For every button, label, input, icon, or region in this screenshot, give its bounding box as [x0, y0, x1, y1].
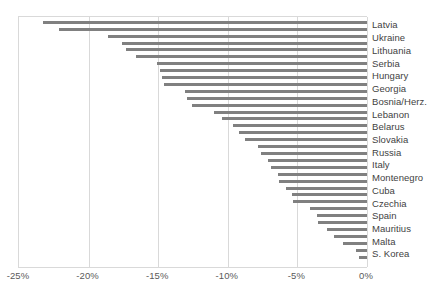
bar — [222, 117, 367, 120]
category-label: Spain — [372, 211, 397, 221]
bar — [292, 193, 367, 196]
bar — [293, 200, 367, 203]
x-tick-label: -25% — [7, 270, 30, 281]
bar-row — [19, 249, 367, 252]
bar-chart: LatviaUkraineLithuaniaSerbiaHungaryGeorg… — [0, 0, 436, 299]
bar — [164, 83, 367, 86]
bar-row — [19, 90, 367, 93]
category-label: Czechia — [372, 199, 407, 209]
bar — [271, 166, 367, 169]
bar-row — [19, 131, 367, 134]
x-tick-label: -10% — [216, 270, 239, 281]
bar — [122, 42, 367, 45]
bar — [136, 55, 367, 58]
bar — [334, 235, 367, 238]
bar-row — [19, 207, 367, 210]
bar — [286, 187, 367, 190]
category-label: Georgia — [372, 84, 406, 94]
bar-row — [19, 42, 367, 45]
bar-row — [19, 97, 367, 100]
bar — [258, 145, 367, 148]
x-tick-label: -5% — [288, 270, 305, 281]
category-label: Montenegro — [372, 173, 423, 183]
bar-row — [19, 111, 367, 114]
bars-container — [19, 17, 367, 267]
bar — [278, 173, 367, 176]
bar-row — [19, 83, 367, 86]
category-label: Cuba — [372, 186, 395, 196]
bar — [245, 138, 367, 141]
bar — [160, 69, 367, 72]
bar — [157, 62, 367, 65]
bar-row — [19, 117, 367, 120]
bar — [192, 104, 367, 107]
bar-row — [19, 228, 367, 231]
category-label: Serbia — [372, 59, 400, 69]
bar-row — [19, 48, 367, 51]
bar-row — [19, 235, 367, 238]
bar — [162, 76, 367, 79]
category-label: Bosnia/Herz. — [372, 97, 427, 107]
bar — [239, 131, 367, 134]
bar-row — [19, 124, 367, 127]
bar — [318, 221, 367, 224]
bar — [268, 159, 367, 162]
category-label: Latvia — [372, 20, 398, 30]
category-label: Mauritius — [372, 224, 411, 234]
bar-row — [19, 166, 367, 169]
x-tick-label: -20% — [76, 270, 99, 281]
x-tick-label: -15% — [146, 270, 169, 281]
bar — [359, 256, 367, 259]
bar — [214, 111, 367, 114]
bar-row — [19, 69, 367, 72]
bar-row — [19, 221, 367, 224]
bar — [59, 28, 367, 31]
bar — [310, 207, 367, 210]
bar-row — [19, 62, 367, 65]
bar — [356, 249, 367, 252]
bar — [279, 180, 367, 183]
bar-row — [19, 173, 367, 176]
bar — [261, 152, 367, 155]
category-label: Hungary — [372, 71, 408, 81]
bar — [343, 242, 367, 245]
category-label: Slovakia — [372, 135, 408, 145]
bar-row — [19, 152, 367, 155]
bar-row — [19, 242, 367, 245]
plot-area — [18, 16, 367, 268]
x-axis-tick-labels: -25%-20%-15%-10%-5%0% — [0, 270, 436, 290]
bar — [43, 21, 367, 24]
bar-row — [19, 159, 367, 162]
bar-row — [19, 145, 367, 148]
bar — [185, 90, 367, 93]
bar — [108, 35, 367, 38]
category-label: Belarus — [372, 122, 405, 132]
bar-row — [19, 200, 367, 203]
bar-row — [19, 214, 367, 217]
category-label: Ukraine — [372, 33, 405, 43]
bar-row — [19, 187, 367, 190]
bar-row — [19, 55, 367, 58]
bar-row — [19, 21, 367, 24]
bar — [317, 214, 367, 217]
bar-row — [19, 35, 367, 38]
bar-row — [19, 256, 367, 259]
bar — [126, 48, 367, 51]
category-label: Malta — [372, 237, 395, 247]
category-label: Italy — [372, 160, 390, 170]
bar-row — [19, 28, 367, 31]
category-label: S. Korea — [372, 249, 409, 259]
category-axis-labels: LatviaUkraineLithuaniaSerbiaHungaryGeorg… — [372, 16, 436, 268]
bar-row — [19, 193, 367, 196]
category-label: Russia — [372, 148, 401, 158]
bar-row — [19, 104, 367, 107]
category-label: Lithuania — [372, 46, 411, 56]
x-tick-label: 0% — [359, 270, 373, 281]
bar-row — [19, 180, 367, 183]
category-label: Lebanon — [372, 110, 409, 120]
bar — [327, 228, 367, 231]
bar — [233, 124, 367, 127]
bar — [187, 97, 367, 100]
bar-row — [19, 138, 367, 141]
gridline — [367, 17, 368, 267]
